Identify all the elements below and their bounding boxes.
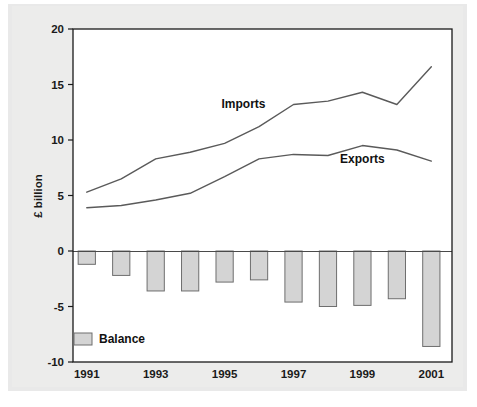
y-tick-label: 0 [58,245,64,257]
balance-bar [354,251,371,305]
legend-swatch-balance [74,333,92,345]
figure-root: 20151050-5-10 199119931995199719992001 £… [0,0,477,407]
chart-legend: Balance [74,332,145,346]
y-tick-label: -10 [47,356,64,368]
y-axis: 20151050-5-10 [47,23,73,368]
balance-bar [423,251,440,346]
x-tick-label: 1999 [350,368,376,380]
balance-bar [147,251,164,291]
balance-bar [182,251,199,291]
x-tick-label: 2001 [419,368,445,380]
y-tick-label: 10 [51,134,64,146]
balance-bar [388,251,405,299]
y-axis-title: £ billion [32,174,44,217]
x-tick-label: 1997 [281,368,307,380]
y-tick-label: -5 [54,301,65,313]
y-tick-label: 5 [58,190,65,202]
balance-bar [78,251,95,264]
trade-balance-chart: 20151050-5-10 199119931995199719992001 £… [0,0,477,407]
balance-bar [216,251,233,282]
x-tick-label: 1993 [143,368,169,380]
y-tick-label: 20 [51,23,64,35]
imports-series-label: Imports [222,97,266,111]
y-tick-label: 15 [51,79,64,91]
balance-bar [285,251,302,302]
x-tick-label: 1991 [74,368,100,380]
plot-area-background [73,29,452,362]
exports-series-label: Exports [340,152,385,166]
x-tick-label: 1995 [212,368,238,380]
legend-label-balance: Balance [99,332,145,346]
balance-bar [250,251,267,280]
balance-bar [113,251,130,275]
x-axis: 199119931995199719992001 [74,368,445,380]
balance-bar [319,251,336,307]
